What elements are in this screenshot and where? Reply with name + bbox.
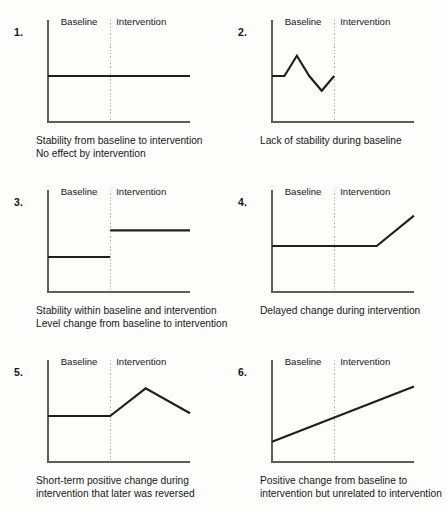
chart-axes bbox=[272, 360, 414, 462]
intervention-phase-label: Intervention bbox=[340, 186, 390, 197]
panel-index: 2. bbox=[238, 26, 247, 38]
data-series-behavior bbox=[272, 56, 334, 91]
panel-index: 6. bbox=[238, 366, 247, 378]
chart-axes bbox=[272, 190, 414, 292]
panel-caption: Lack of stability during baseline bbox=[260, 134, 447, 147]
chart-2: BaselineIntervention bbox=[254, 8, 434, 130]
data-series-behavior bbox=[272, 387, 414, 442]
chart-5: BaselineIntervention bbox=[30, 348, 210, 470]
panel-index: 1. bbox=[14, 26, 23, 38]
baseline-phase-label: Baseline bbox=[61, 16, 98, 27]
intervention-phase-label: Intervention bbox=[116, 356, 166, 367]
chart-axes bbox=[48, 20, 190, 122]
baseline-phase-label: Baseline bbox=[285, 186, 322, 197]
intervention-phase-label: Intervention bbox=[116, 186, 166, 197]
data-series-behavior bbox=[272, 216, 414, 246]
panel-caption: Short-term positive change during interv… bbox=[36, 474, 241, 500]
chart-1: BaselineIntervention bbox=[30, 8, 210, 130]
baseline-phase-label: Baseline bbox=[61, 356, 98, 367]
chart-axes bbox=[272, 20, 414, 122]
panel-caption: Delayed change during intervention bbox=[260, 304, 447, 317]
chart-axes bbox=[48, 190, 190, 292]
baseline-phase-label: Baseline bbox=[61, 186, 98, 197]
intervention-phase-label: Intervention bbox=[340, 16, 390, 27]
panel-caption: Stability from baseline to intervention … bbox=[36, 134, 241, 160]
data-series-behavior bbox=[48, 388, 190, 416]
chart-3: BaselineIntervention bbox=[30, 178, 210, 300]
chart-axes bbox=[48, 360, 190, 462]
panel-index: 4. bbox=[238, 196, 247, 208]
intervention-phase-label: Intervention bbox=[340, 356, 390, 367]
panel-index: 3. bbox=[14, 196, 23, 208]
panel-caption: Positive change from baseline to interve… bbox=[260, 474, 447, 500]
baseline-phase-label: Baseline bbox=[285, 356, 322, 367]
baseline-phase-label: Baseline bbox=[285, 16, 322, 27]
figure-sheet: 1.BaselineInterventionStability from bas… bbox=[0, 0, 447, 512]
intervention-phase-label: Intervention bbox=[116, 16, 166, 27]
chart-6: BaselineIntervention bbox=[254, 348, 434, 470]
panel-caption: Stability within baseline and interventi… bbox=[36, 304, 241, 330]
chart-4: BaselineIntervention bbox=[254, 178, 434, 300]
panel-index: 5. bbox=[14, 366, 23, 378]
